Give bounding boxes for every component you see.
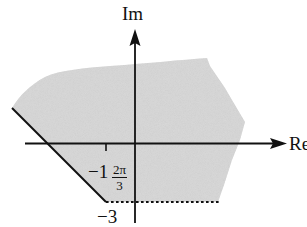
angle-fraction-label: 2π 3 (112, 163, 127, 192)
angle-numerator: 2π (112, 163, 127, 177)
imaginary-axis-label: Im (122, 4, 143, 23)
angle-denominator: 3 (116, 178, 123, 192)
complex-plane-diagram (0, 0, 307, 227)
real-tick-label: −1 (88, 162, 108, 181)
shaded-region (12, 58, 245, 202)
imaginary-tick-label: −3 (97, 207, 117, 226)
real-axis-label: Re (289, 134, 307, 153)
